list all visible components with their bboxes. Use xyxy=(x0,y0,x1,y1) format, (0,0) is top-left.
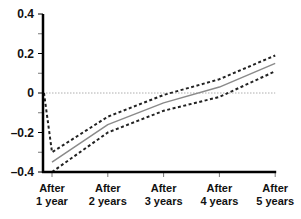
x-tick-label-line: 5 years xyxy=(256,195,294,207)
x-tick-label-line: After xyxy=(39,182,65,194)
x-tick-label: After4 years xyxy=(200,182,238,207)
y-axis-ticks: 0.40.20–0.2–0.4 xyxy=(11,7,43,179)
x-tick-label-line: After xyxy=(262,182,288,194)
x-tick-label-line: 4 years xyxy=(200,195,238,207)
y-tick-label: –0.2 xyxy=(11,126,35,140)
x-tick-label-line: 3 years xyxy=(145,195,183,207)
y-tick-label: 0.2 xyxy=(17,47,34,61)
x-tick-label-line: After xyxy=(207,182,233,194)
series-line-estimate xyxy=(52,63,275,162)
x-tick-label: After1 year xyxy=(36,182,69,207)
y-tick-label: 0 xyxy=(27,86,34,100)
series-group xyxy=(44,55,275,172)
x-tick-label: After3 years xyxy=(145,182,183,207)
chart: 0.40.20–0.2–0.4 After1 yearAfter2 yearsA… xyxy=(0,0,301,219)
y-tick-label: –0.4 xyxy=(11,165,35,179)
x-tick-label-line: After xyxy=(151,182,177,194)
x-tick-label-line: After xyxy=(95,182,121,194)
series-line-lower-bound xyxy=(52,71,275,172)
x-axis-ticks: After1 yearAfter2 yearsAfter3 yearsAfter… xyxy=(36,172,294,207)
x-tick-label: After2 years xyxy=(89,182,127,207)
y-tick-label: 0.4 xyxy=(17,7,34,21)
x-tick-label-line: 2 years xyxy=(89,195,127,207)
x-tick-label-line: 1 year xyxy=(36,195,69,207)
x-tick-label: After5 years xyxy=(256,182,294,207)
